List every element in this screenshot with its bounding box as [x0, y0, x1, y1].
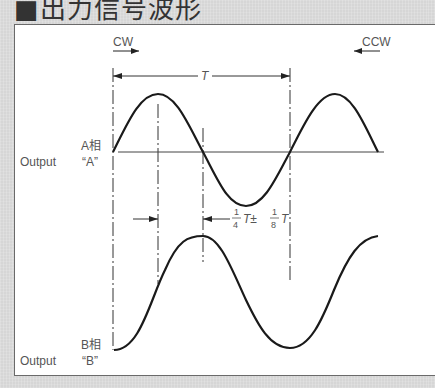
ccw-label: CCW — [362, 35, 391, 49]
cw-indicator: CW — [113, 35, 139, 51]
b-output-name: “B” — [82, 354, 98, 368]
offset-t-tail: T — [281, 212, 290, 226]
period-arrow-right-icon — [281, 73, 290, 79]
fraction-2-denominator: 8 — [271, 220, 276, 230]
fraction-2-numerator: 1 — [272, 207, 277, 217]
b-phase-name: B相 — [81, 338, 101, 352]
period-label: T — [201, 69, 210, 83]
ccw-indicator: CCW — [354, 35, 391, 51]
period-arrow-left-icon — [113, 73, 122, 79]
a-output-label: Output — [20, 155, 57, 169]
fraction-1-denominator: 4 — [233, 220, 238, 230]
period-dimension: T — [113, 69, 290, 83]
a-phase-waveform — [113, 94, 378, 206]
offset-arrow-left-icon — [203, 216, 212, 222]
offset-arrow-right-icon — [149, 216, 158, 222]
b-phase-waveform — [114, 236, 378, 350]
phase-offset-dimension: 1 4 T± 1 8 T — [133, 207, 290, 230]
a-output-name: “A” — [82, 155, 98, 169]
cw-label: CW — [113, 35, 134, 49]
a-phase-name: A相 — [81, 139, 101, 153]
a-phase-label: A相 Output “A” — [20, 139, 101, 169]
offset-t-plusminus: T± — [243, 212, 257, 226]
fraction-1-numerator: 1 — [234, 207, 239, 217]
b-output-label: Output — [20, 354, 57, 368]
guide-lines — [113, 68, 290, 350]
b-phase-label: B相 Output “B” — [20, 338, 101, 368]
